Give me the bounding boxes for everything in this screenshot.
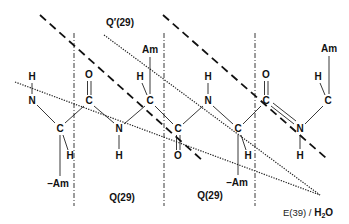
atom-ha2: H [136,71,143,82]
atom-am1: –Am [47,178,69,189]
atom-c1: C [85,95,92,106]
atom-h2: H [115,150,122,161]
atom-o1: O [85,69,93,80]
bond-n3-ca3 [213,106,233,124]
atom-ha4: H [314,71,321,82]
atom-n2: N [115,123,122,134]
atom-c2: C [174,123,181,134]
atom-labels: H N C H –Am O C N H H C Am C O H N C H –… [28,43,337,189]
atom-o3: O [262,69,270,80]
atom-n1: N [28,95,35,106]
dotted-interaction-lines [15,35,320,195]
bond-ca2-ha2 [142,83,147,95]
bond-ca4-ha4 [320,83,325,95]
bond-ca1-ha1 [63,135,68,150]
bond-ca1-c1 [65,106,84,123]
atom-h1: H [28,71,35,82]
atom-ha1: H [66,150,73,161]
bond-ca3-c3 [243,106,261,124]
bond-n2-ca2 [124,106,145,124]
region-labels: Q′(29) Q(29) Q(29) E(39) / H2O [106,17,333,219]
atom-h3: H [204,71,211,82]
atom-n3: N [204,95,211,106]
dashed-plane-2 [163,15,326,158]
bond-c2-n3 [183,106,203,124]
atom-am2: Am [142,44,158,55]
bond-c3-n4-a [271,106,294,124]
label-q-left: Q(29) [109,192,135,203]
bond-c3-n4-b [273,103,296,121]
label-q-prime: Q′(29) [106,17,134,28]
bond-n1-ca1 [37,105,55,123]
atom-n4: N [296,123,303,134]
label-e-site-prefix: E(39) / [283,207,314,218]
label-e-site: E(39) / H2O [283,207,333,219]
label-q-right: Q(29) [197,190,223,201]
dashed-planes [40,15,326,160]
atom-ca3: C [234,123,241,134]
atom-am3: –Am [226,177,248,188]
label-e-site-h: H [314,207,321,218]
atom-h4: H [296,150,303,161]
atom-o2: O [174,150,182,161]
bond-ca3-ha3 [241,135,246,150]
label-e-site-o: O [325,207,333,218]
atom-ha3: H [244,150,251,161]
atom-ca1: C [56,123,63,134]
atom-c3: C [262,95,269,106]
atom-am4: Am [321,43,337,54]
bond-n4-ca4 [305,106,323,124]
diagram-canvas: H N C H –Am O C N H H C Am C O H N C H –… [0,0,349,224]
atom-ca4: C [324,95,331,106]
atom-ca2: C [146,95,153,106]
peptide-backbone-diagram: H N C H –Am O C N H H C Am C O H N C H –… [0,0,349,224]
